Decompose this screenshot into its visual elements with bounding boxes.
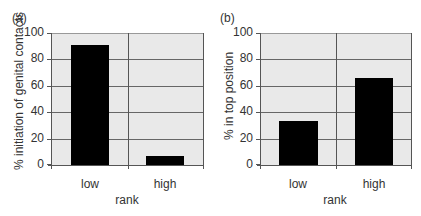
- panel-b: (b) % in top position 020406080100 low h…: [0, 0, 421, 216]
- y-tick: [256, 139, 260, 140]
- y-tick-label: 60: [225, 78, 253, 92]
- y-tick: [256, 59, 260, 60]
- y-tick-label: 100: [225, 25, 253, 39]
- y-tick-label: 0: [225, 157, 253, 171]
- category-divider: [411, 33, 412, 169]
- y-tick: [256, 33, 260, 34]
- y-tick: [256, 164, 260, 165]
- category-label: low: [268, 177, 328, 191]
- x-axis: [257, 165, 412, 166]
- y-tick-label: 20: [225, 131, 253, 145]
- bar-high: [355, 78, 393, 165]
- y-tick: [256, 112, 260, 113]
- category-label: high: [344, 177, 404, 191]
- panel-label: (b): [220, 11, 235, 25]
- category-divider: [336, 33, 337, 169]
- y-tick-label: 40: [225, 104, 253, 118]
- plot-area: 020406080100: [261, 33, 412, 165]
- bar-low: [279, 121, 318, 165]
- y-axis: [260, 33, 261, 169]
- y-tick: [256, 86, 260, 87]
- y-tick-label: 80: [225, 51, 253, 65]
- x-axis-label: rank: [305, 193, 365, 207]
